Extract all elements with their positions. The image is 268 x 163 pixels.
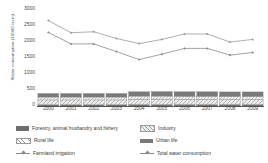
line-marker (229, 54, 232, 57)
bar-segment (242, 96, 263, 99)
bar-segment (61, 97, 82, 100)
line-marker (183, 47, 186, 50)
x-axis-tick: 2006 (173, 107, 197, 112)
bar-segment (129, 96, 150, 99)
line-marker (161, 38, 164, 41)
line-marker (92, 43, 95, 46)
chart-figure: Water consumption (10000 cu.m) 050010001… (0, 0, 268, 163)
y-axis-tick: 2000 (9, 39, 35, 44)
bar-segment (197, 96, 218, 99)
line-marker (251, 51, 254, 54)
legend-item[interactable]: Farmland irrigation (16, 148, 75, 159)
line-marker (206, 47, 209, 50)
line-path (48, 21, 252, 44)
bar-segment (129, 92, 150, 96)
x-axis-tick: 2004 (127, 107, 151, 112)
legend-label: Farmland irrigation (33, 151, 75, 156)
chart-plot-region: Water consumption (10000 cu.m) 050010001… (0, 0, 268, 122)
line-path (48, 32, 252, 59)
chart-svg (37, 10, 264, 106)
line-marker (138, 58, 141, 61)
line-marker (161, 53, 164, 56)
line-marker (206, 33, 209, 36)
bar-segment (106, 100, 127, 105)
legend-item[interactable]: Total water consumption (140, 148, 211, 159)
bar-segment (38, 100, 59, 105)
legend-color-swatch (16, 126, 29, 130)
bar-segment (174, 99, 195, 104)
bar-segment (38, 94, 59, 98)
legend-row: Forestry, animal husbandry and fisheryIn… (10, 123, 262, 134)
legend-label: Industry (158, 126, 176, 131)
y-axis-tick: 2500 (9, 23, 35, 28)
line-marker (251, 38, 254, 41)
legend-line-swatch (16, 151, 30, 155)
legend-color-swatch (140, 139, 153, 143)
legend-line-swatch (140, 151, 154, 155)
x-axis-tick-labels: 2000200120022003200420052006200720082009 (37, 107, 264, 117)
bar-segment (106, 97, 127, 100)
bar-segment (242, 99, 263, 104)
legend-item[interactable]: Rural life (16, 135, 54, 146)
line-series-group (47, 19, 254, 61)
bar-segment (38, 97, 59, 100)
y-axis-tick: 0 (9, 103, 35, 108)
y-axis-tick-labels: 050010001500200025003000 (8, 0, 35, 122)
bar-segment (106, 94, 127, 98)
line-marker (115, 37, 118, 40)
y-axis-tick: 1500 (9, 55, 35, 60)
x-axis-tick: 2007 (195, 107, 219, 112)
line-marker (229, 41, 232, 44)
legend-label: Total water consumption (157, 151, 211, 156)
legend-label: Rural life (34, 138, 54, 143)
line-marker (92, 30, 95, 33)
x-axis-tick: 2003 (104, 107, 128, 112)
line-marker (138, 42, 141, 45)
bar-segment (61, 100, 82, 105)
legend-item[interactable]: Industry (140, 123, 176, 134)
bar-segment (83, 97, 104, 100)
legend-color-swatch (140, 125, 155, 131)
bar-segment (220, 96, 241, 99)
x-axis-tick: 2008 (218, 107, 242, 112)
bar-segment (197, 92, 218, 96)
x-axis-tick: 2002 (82, 107, 106, 112)
legend-item[interactable]: Forestry, animal husbandry and fishery (16, 123, 118, 134)
bar-segment (83, 94, 104, 98)
x-axis-tick: 2005 (150, 107, 174, 112)
legend-row: Farmland irrigationTotal water consumpti… (10, 148, 262, 159)
x-axis-tick: 2009 (241, 107, 265, 112)
chart-canvas (37, 10, 264, 106)
bar-segment (83, 100, 104, 105)
bar-segment (129, 99, 150, 104)
bar-segment (220, 99, 241, 104)
y-axis-tick: 1000 (9, 71, 35, 76)
line-marker (115, 50, 118, 53)
bar-segment (151, 96, 172, 99)
legend-color-swatch (16, 138, 31, 144)
bar-segment (197, 99, 218, 104)
legend-label: Urban life (156, 138, 177, 143)
legend-row: Rural lifeUrban life (10, 135, 262, 146)
y-axis-tick: 3000 (9, 7, 35, 12)
bar-segment (151, 99, 172, 104)
bar-segment (242, 92, 263, 96)
bar-segment (61, 94, 82, 98)
x-axis-tick: 2001 (59, 107, 83, 112)
bar-segment (151, 92, 172, 96)
bar-segment (174, 96, 195, 99)
chart-legend: Forestry, animal husbandry and fisheryIn… (10, 123, 262, 161)
line-marker (183, 33, 186, 36)
stacked-bar-group (38, 92, 263, 106)
legend-label: Forestry, animal husbandry and fishery (32, 126, 118, 131)
bar-segment (220, 92, 241, 96)
y-axis-tick: 500 (9, 87, 35, 92)
x-axis-tick: 2000 (36, 107, 60, 112)
legend-item[interactable]: Urban life (140, 135, 177, 146)
bar-segment (174, 92, 195, 96)
